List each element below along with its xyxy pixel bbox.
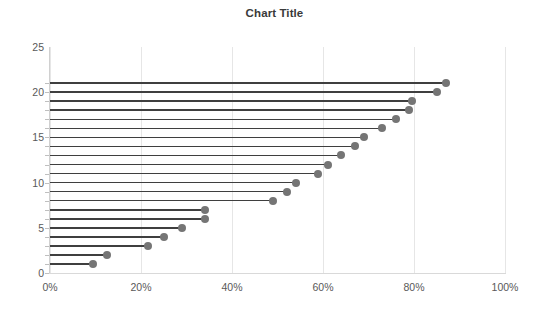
- stem-line: [50, 245, 148, 247]
- y-minor-tick: [45, 228, 49, 229]
- stem-line: [50, 109, 409, 111]
- y-tick-label-15: 15: [16, 132, 44, 142]
- data-point-marker[interactable]: [292, 179, 300, 187]
- y-minor-tick: [45, 237, 49, 238]
- stem-line: [50, 227, 182, 229]
- gridline-x-40%: [232, 47, 233, 273]
- data-point-marker[interactable]: [324, 161, 332, 169]
- y-minor-tick: [45, 246, 49, 247]
- data-point-marker[interactable]: [144, 242, 152, 250]
- data-point-marker[interactable]: [201, 206, 209, 214]
- y-minor-tick: [45, 155, 49, 156]
- x-axis-line: [49, 273, 506, 274]
- stem-line: [50, 200, 273, 202]
- y-tick-label-25: 25: [16, 42, 44, 52]
- data-point-marker[interactable]: [160, 233, 168, 241]
- stem-line: [50, 236, 164, 238]
- x-tick-label-0%: 0%: [20, 281, 80, 293]
- data-point-marker[interactable]: [178, 224, 186, 232]
- y-tick-label-20: 20: [16, 87, 44, 97]
- y-axis-tick-labels: 0510152025: [10, 0, 44, 314]
- stem-line: [50, 100, 412, 102]
- y-minor-tick: [45, 137, 49, 138]
- data-point-marker[interactable]: [201, 215, 209, 223]
- chart-title: Chart Title: [0, 7, 549, 19]
- data-point-marker[interactable]: [433, 88, 441, 96]
- x-tick-label-20%: 20%: [111, 281, 171, 293]
- data-point-marker[interactable]: [351, 142, 359, 150]
- stem-line: [50, 137, 364, 139]
- data-point-marker[interactable]: [269, 197, 277, 205]
- data-point-marker[interactable]: [405, 106, 413, 114]
- data-point-marker[interactable]: [378, 124, 386, 132]
- stem-line: [50, 209, 205, 211]
- data-point-marker[interactable]: [314, 170, 322, 178]
- y-tick-label-10: 10: [16, 178, 44, 188]
- stem-line: [50, 218, 205, 220]
- data-point-marker[interactable]: [360, 133, 368, 141]
- chart-container: Chart Title 0510152025 0%20%40%60%80%100…: [0, 0, 549, 314]
- x-tick-label-60%: 60%: [293, 281, 353, 293]
- y-minor-tick: [45, 219, 49, 220]
- gridline-x-100%: [505, 47, 506, 273]
- data-point-marker[interactable]: [283, 188, 291, 196]
- y-minor-tick: [45, 273, 49, 274]
- stem-line: [50, 146, 355, 148]
- stem-line: [50, 82, 446, 84]
- y-minor-tick: [45, 210, 49, 211]
- gridline-x-20%: [141, 47, 142, 273]
- stem-line: [50, 91, 437, 93]
- data-point-marker[interactable]: [392, 115, 400, 123]
- gridline-x-60%: [323, 47, 324, 273]
- stem-line: [50, 155, 341, 157]
- y-minor-tick: [45, 101, 49, 102]
- y-minor-tick: [45, 165, 49, 166]
- y-minor-tick: [45, 174, 49, 175]
- y-minor-tick: [45, 201, 49, 202]
- plot-area: [50, 47, 505, 273]
- y-tick-label-0: 0: [16, 268, 44, 278]
- y-minor-tick: [45, 264, 49, 265]
- stem-line: [50, 173, 318, 175]
- x-tick-label-100%: 100%: [475, 281, 535, 293]
- data-point-marker[interactable]: [442, 79, 450, 87]
- data-point-marker[interactable]: [103, 251, 111, 259]
- y-minor-tick: [45, 192, 49, 193]
- gridline-x-80%: [414, 47, 415, 273]
- gridline-x-0%: [50, 47, 51, 273]
- stem-line: [50, 191, 287, 193]
- x-tick-label-80%: 80%: [384, 281, 444, 293]
- data-point-marker[interactable]: [89, 260, 97, 268]
- y-minor-tick: [45, 119, 49, 120]
- stem-line: [50, 254, 107, 256]
- data-point-marker[interactable]: [337, 151, 345, 159]
- y-minor-tick: [45, 183, 49, 184]
- y-minor-tick: [45, 110, 49, 111]
- y-minor-tick: [45, 255, 49, 256]
- y-minor-tick: [45, 146, 49, 147]
- stem-line: [50, 119, 396, 121]
- y-minor-tick: [45, 128, 49, 129]
- y-minor-tick: [45, 83, 49, 84]
- y-tick-label-5: 5: [16, 223, 44, 233]
- stem-line: [50, 128, 382, 130]
- stem-line: [50, 263, 93, 265]
- stem-line: [50, 164, 328, 166]
- x-tick-label-40%: 40%: [202, 281, 262, 293]
- y-minor-tick: [45, 92, 49, 93]
- stem-line: [50, 182, 296, 184]
